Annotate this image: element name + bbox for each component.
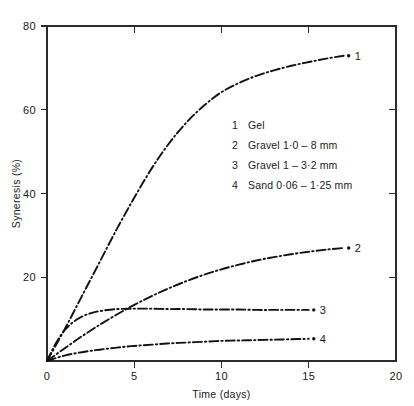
x-label-10: 10	[215, 370, 228, 382]
endpoint-dot-1	[347, 54, 350, 57]
x-label-0: 0	[44, 370, 51, 382]
right-axis-ticks	[389, 110, 396, 278]
legend-num-2: 2	[232, 139, 238, 151]
curve-4-sand	[47, 339, 309, 361]
curve-end-label-2: 2	[355, 242, 361, 254]
legend-label-2: Gravel 1·0 – 8 mm	[248, 139, 338, 151]
curve-end-labels: 1 2 3 4	[320, 50, 361, 345]
x-tick-labels: 0 5 10 15 20	[44, 370, 403, 382]
y-tick-labels: 80 60 40 20	[23, 20, 36, 283]
legend-num-4: 4	[232, 179, 238, 191]
y-axis-title: Syneresis (%)	[10, 159, 22, 228]
axes-box	[47, 26, 396, 361]
x-axis-title: Time (days)	[192, 388, 250, 400]
x-label-20: 20	[389, 370, 402, 382]
syneresis-time-chart: 80 60 40 20 0 5 10 15 20 Time (days) Syn…	[0, 0, 414, 406]
curve-2-gravel-1-0-8mm	[47, 248, 344, 361]
chart-svg: 80 60 40 20 0 5 10 15 20 Time (days) Syn…	[0, 0, 414, 406]
legend-label-3: Gravel 1 – 3·2 mm	[248, 159, 338, 171]
curve-1-gel	[47, 56, 344, 361]
curve-end-label-4: 4	[320, 333, 326, 345]
legend-label-1: Gel	[248, 119, 265, 131]
x-axis-ticks	[134, 361, 309, 368]
curve-end-label-1: 1	[355, 50, 361, 62]
y-label-20: 20	[23, 271, 36, 283]
endpoint-dot-4	[312, 337, 315, 340]
legend: 1 Gel 2 Gravel 1·0 – 8 mm 3 Gravel 1 – 3…	[232, 119, 353, 191]
plot-frame	[47, 26, 396, 361]
y-label-60: 60	[23, 104, 36, 116]
y-axis-ticks	[41, 26, 47, 277]
legend-label-4: Sand 0·06 – 1·25 mm	[248, 179, 353, 191]
curve-endpoint-dots	[312, 54, 350, 340]
legend-num-1: 1	[232, 119, 238, 131]
curve-3-gravel-1-3-2mm	[47, 309, 309, 361]
legend-num-3: 3	[232, 159, 238, 171]
curve-end-label-3: 3	[320, 304, 326, 316]
data-curves	[47, 56, 344, 361]
y-label-80: 80	[23, 20, 36, 32]
endpoint-dot-2	[347, 246, 350, 249]
endpoint-dot-3	[312, 308, 315, 311]
x-label-5: 5	[131, 370, 138, 382]
y-label-40: 40	[23, 188, 36, 200]
top-axis-ticks	[134, 26, 309, 33]
x-label-15: 15	[302, 370, 315, 382]
